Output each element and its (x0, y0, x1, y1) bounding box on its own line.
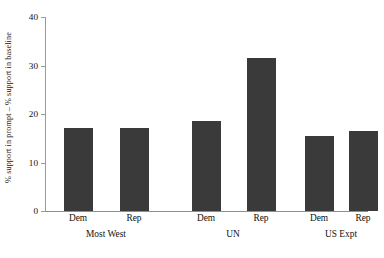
bar (192, 121, 221, 211)
category-label: Rep (355, 213, 370, 223)
group-label: UN (226, 229, 240, 239)
y-axis-tick-label: 20 (16, 109, 38, 119)
category-label: Dem (197, 213, 215, 223)
y-axis-label-text: % support in prompt – % support in basel… (4, 32, 13, 183)
bar-chart-figure: % support in prompt – % support in basel… (0, 0, 384, 258)
plot-area (45, 17, 368, 211)
group-labels: Most WestUNUS Expt (45, 229, 368, 247)
y-axis-tick-label: 30 (16, 61, 38, 71)
y-axis-tick-label: 0 (16, 206, 38, 216)
bar (247, 58, 276, 211)
category-label: Rep (126, 213, 141, 223)
bar (120, 128, 149, 211)
group-label: US Expt (325, 229, 357, 239)
y-axis-tick-labels: 010203040 (14, 0, 38, 258)
group-label: Most West (86, 229, 126, 239)
bar (305, 136, 334, 211)
category-label: Dem (69, 213, 87, 223)
bar (64, 128, 93, 211)
category-label: Dem (310, 213, 328, 223)
category-label: Rep (253, 213, 268, 223)
y-axis-tick-label: 10 (16, 158, 38, 168)
y-axis-tick-label: 40 (16, 12, 38, 22)
bar (349, 131, 378, 212)
x-axis-line (45, 211, 368, 212)
